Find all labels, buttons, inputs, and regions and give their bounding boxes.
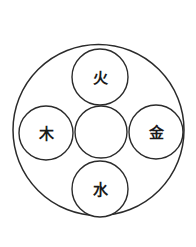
node-label-metal: 金: [148, 124, 165, 142]
node-label-fire: 火: [93, 69, 109, 87]
node-circle-center[interactable]: [75, 106, 127, 158]
wuxing-diagram: 火 木 金 水: [0, 0, 196, 247]
wuxing-diagram-canvas: 火 木 金 水: [0, 0, 196, 247]
node-label-wood: 木: [38, 125, 55, 143]
node-label-water: 水: [93, 181, 109, 199]
